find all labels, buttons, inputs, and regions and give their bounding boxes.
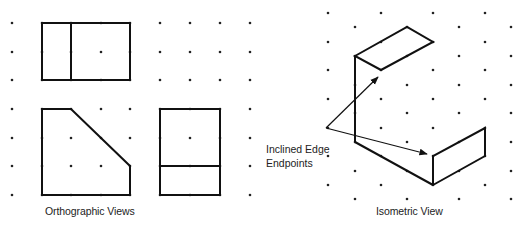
grid-dot [484,41,487,44]
grid-dot [159,79,162,82]
annotation-line-2: Endpoints [266,156,330,170]
annotation-line-1: Inclined Edge [266,142,330,156]
grid-dot [70,137,73,140]
grid-dot [432,98,435,101]
grid-dot [11,165,14,168]
grid-dot [380,184,383,187]
grid-dot [129,137,132,140]
grid-dot [100,108,103,111]
grid-dot [484,12,487,15]
arrow-1 [326,77,378,128]
grid-dot [11,51,14,54]
grid-dot [327,184,330,187]
top-view-outer [42,23,130,80]
grid-dot [189,137,192,140]
grid-dot [354,26,357,29]
grid-dot [189,22,192,25]
grid-dot [380,12,383,15]
iso-top-face [355,27,433,70]
grid-dot [458,84,461,87]
grid-dot [327,12,330,15]
grid-dot [327,69,330,72]
grid-dot [219,51,222,54]
grid-dot [327,98,330,101]
grid-dot [129,108,132,111]
grid-dot [458,26,461,29]
grid-dot [380,98,383,101]
grid-dot [249,79,252,82]
grid-dot [406,84,409,87]
isometric-view-caption: Isometric View [376,205,443,217]
grid-dot [11,194,14,197]
grid-dot [380,127,383,130]
grid-dot [159,51,162,54]
grid-dot [484,184,487,187]
grid-dot [432,69,435,72]
grid-dot [327,41,330,44]
diagram-canvas [0,0,525,230]
iso-right-face [433,128,485,185]
grid-dot [458,198,461,201]
front-view [42,109,130,195]
grid-dot [11,137,14,140]
grid-dot [406,112,409,115]
grid-dot [354,198,357,201]
grid-dot [249,137,252,140]
grid-dot [432,12,435,15]
grid-dot [11,79,14,82]
grid-dot [249,165,252,168]
grid-dot [510,198,513,201]
grid-dot [510,170,513,173]
iso-inclined-edge [355,142,433,185]
grid-dot [249,22,252,25]
grid-dot [432,127,435,130]
grid-dot [510,112,513,115]
grid-dot [249,108,252,111]
grid-dot [70,165,73,168]
grid-dot [219,79,222,82]
grid-dot [189,79,192,82]
grid-dot [249,51,252,54]
grid-dot [510,26,513,29]
grid-dot [406,141,409,144]
grid-dot [189,51,192,54]
grid-dot [249,194,252,197]
side-view-outer [160,109,220,195]
grid-dot [510,141,513,144]
grid-dot [484,98,487,101]
inclined-edge-arrows [326,77,427,154]
grid-dot [159,22,162,25]
arrow-2 [326,128,427,154]
grid-dot [100,51,103,54]
grid-dot [100,165,103,168]
orthographic-views-caption: Orthographic Views [45,205,135,217]
grid-dot [484,69,487,72]
inclined-edge-endpoints-label: Inclined Edge Endpoints [266,142,330,170]
grid-dot [406,198,409,201]
isometric-view [355,27,485,185]
grid-dot [510,55,513,58]
grid-dot [219,22,222,25]
grid-dot [11,22,14,25]
grid-dot [458,112,461,115]
grid-dot [458,55,461,58]
grid-dot [11,108,14,111]
grid-dot [354,170,357,173]
grid-dot [510,84,513,87]
